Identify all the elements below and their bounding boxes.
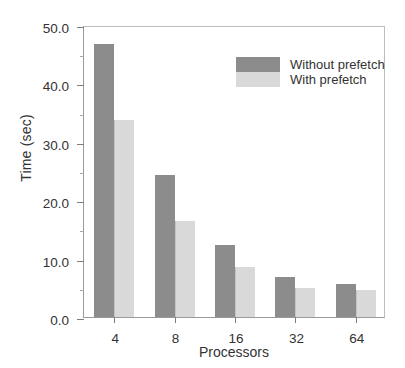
y-tick-major: 10.0 bbox=[77, 261, 84, 262]
y-tick-major: 30.0 bbox=[77, 144, 84, 145]
bar bbox=[235, 267, 255, 317]
y-tick-label: 0.0 bbox=[50, 313, 69, 328]
legend-item-with-prefetch: With prefetch bbox=[236, 72, 385, 87]
legend-label-with-prefetch: With prefetch bbox=[290, 72, 367, 87]
y-tick-major: 40.0 bbox=[77, 85, 84, 86]
y-tick-minor bbox=[80, 56, 84, 57]
x-tick: 16 bbox=[235, 317, 236, 323]
y-tick-minor bbox=[80, 231, 84, 232]
y-tick-major: 20.0 bbox=[77, 202, 84, 203]
legend-item-without-prefetch: Without prefetch bbox=[236, 57, 385, 72]
x-tick: 4 bbox=[114, 317, 115, 323]
bar bbox=[94, 44, 114, 317]
y-tick-label: 40.0 bbox=[43, 79, 69, 94]
y-tick-major: 0.0 bbox=[77, 319, 84, 320]
chart-legend: Without prefetch With prefetch bbox=[236, 57, 385, 87]
bar bbox=[215, 245, 235, 317]
bar bbox=[175, 221, 195, 317]
y-tick-major: 50.0 bbox=[77, 27, 84, 28]
y-tick-minor bbox=[80, 173, 84, 174]
y-tick-label: 10.0 bbox=[43, 254, 69, 269]
legend-swatch-with-prefetch bbox=[236, 72, 280, 87]
x-axis-title: Processors bbox=[83, 344, 385, 360]
x-tick: 64 bbox=[356, 317, 357, 323]
y-axis-title: Time (sec) bbox=[18, 78, 34, 218]
y-tick-label: 30.0 bbox=[43, 137, 69, 152]
bar bbox=[336, 284, 356, 317]
legend-swatch-without-prefetch bbox=[236, 57, 280, 72]
x-tick: 8 bbox=[175, 317, 176, 323]
bar bbox=[155, 175, 175, 317]
legend-label-without-prefetch: Without prefetch bbox=[290, 57, 385, 72]
y-tick-label: 50.0 bbox=[43, 21, 69, 36]
y-tick-minor bbox=[80, 115, 84, 116]
y-tick-minor bbox=[80, 290, 84, 291]
plot-area: 0.010.020.030.040.050.0 48163264 Without… bbox=[83, 26, 385, 318]
bar bbox=[356, 290, 376, 317]
x-tick: 32 bbox=[295, 317, 296, 323]
bar-chart-figure: Time (sec) 0.010.020.030.040.050.0 48163… bbox=[0, 0, 405, 368]
bar bbox=[295, 288, 315, 317]
bar bbox=[275, 277, 295, 317]
y-tick-label: 20.0 bbox=[43, 196, 69, 211]
bar bbox=[114, 120, 134, 317]
